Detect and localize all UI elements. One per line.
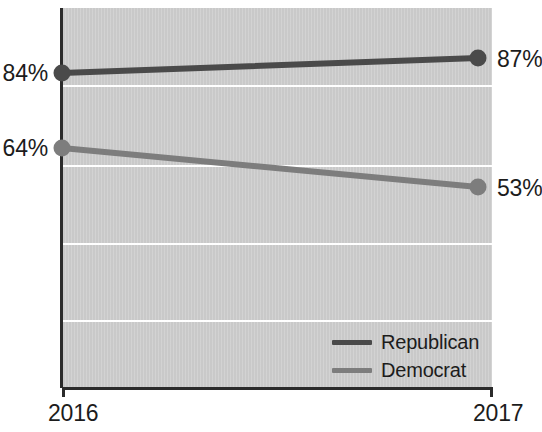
legend: Republican Democrat (332, 328, 479, 384)
legend-swatch-republican (332, 340, 372, 345)
value-label-democrat-start: 64% (0, 135, 48, 162)
x-axis-label-end: 2017 (473, 400, 523, 427)
gridline-1 (62, 85, 492, 87)
x-axis-line (62, 387, 493, 390)
legend-label-democrat: Democrat (381, 359, 466, 382)
legend-swatch-democrat (332, 368, 372, 373)
legend-label-republican: Republican (381, 331, 479, 354)
x-axis-tick-start (62, 387, 65, 397)
gridline-2 (62, 165, 492, 167)
value-label-republican-end: 87% (497, 46, 542, 73)
value-label-republican-start: 84% (0, 60, 48, 87)
gridline-4 (62, 320, 492, 322)
x-axis-label-start: 2016 (48, 400, 98, 427)
x-axis-tick-end (490, 387, 493, 397)
y-axis-line (60, 8, 63, 388)
value-label-democrat-end: 53% (497, 175, 542, 202)
legend-item-republican: Republican (332, 328, 479, 356)
legend-item-democrat: Democrat (332, 356, 479, 384)
gridline-3 (62, 243, 492, 245)
